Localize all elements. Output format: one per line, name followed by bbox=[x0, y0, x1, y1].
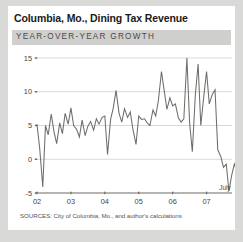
chart-figure: Columbia, Mo., Dining Tax Revenue YEAR-O… bbox=[8, 6, 235, 230]
xtick-mark bbox=[172, 192, 173, 195]
xtick-mark bbox=[70, 192, 71, 195]
ytick-label: 5 bbox=[28, 121, 32, 130]
ytick-mark bbox=[35, 91, 37, 93]
ytick-label: 10 bbox=[24, 87, 32, 96]
xtick-label: 04 bbox=[101, 197, 109, 206]
chart-source-note: SOURCES: City of Columbia, Mo., and auth… bbox=[20, 212, 182, 219]
xtick-mark bbox=[206, 192, 207, 195]
ytick-mark bbox=[35, 57, 37, 59]
xtick-label: 03 bbox=[67, 197, 75, 206]
xtick-mark bbox=[36, 192, 37, 195]
ytick-mark bbox=[35, 159, 37, 161]
ytick-label: 0 bbox=[28, 155, 32, 164]
xtick-label: 06 bbox=[169, 197, 177, 206]
annotation-july-label: July bbox=[219, 184, 231, 192]
xtick-mark bbox=[104, 192, 105, 195]
ytick-label: -5 bbox=[25, 189, 32, 198]
data-series-line bbox=[37, 58, 235, 191]
xtick-label: 07 bbox=[202, 197, 210, 206]
xtick-mark bbox=[138, 192, 139, 195]
xtick-label: 02 bbox=[33, 197, 41, 206]
chart-plot-area: -5051015020304050607July bbox=[8, 6, 235, 230]
ytick-label: 15 bbox=[24, 54, 32, 63]
xtick-label: 05 bbox=[135, 197, 143, 206]
